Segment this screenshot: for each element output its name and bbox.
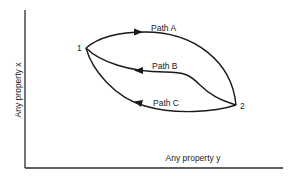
path-a-arrow-right-icon	[134, 29, 143, 36]
path-b-arrow-left-icon	[134, 67, 143, 74]
axes	[25, 10, 283, 168]
process-path-diagram: Any property x Any property y Path A Pat…	[0, 0, 295, 177]
state-2-label: 2	[240, 101, 245, 111]
path-a-label: Path A	[151, 23, 176, 33]
path-c-arrow-left-icon	[134, 100, 143, 107]
x-axis-label: Any property y	[166, 153, 222, 163]
path-b-label: Path B	[152, 61, 178, 71]
path-c-label: Path C	[153, 98, 179, 108]
state-1-label: 1	[77, 43, 82, 53]
y-axis-label: Any property x	[13, 62, 23, 118]
